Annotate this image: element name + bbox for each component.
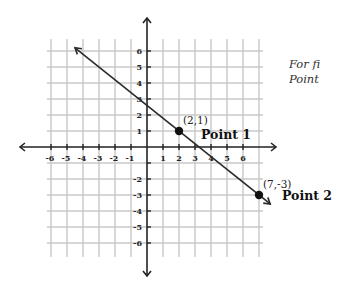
y-tick-label: -4 [133, 206, 142, 216]
side-caption: For fi Point [289, 57, 356, 87]
graph-line [75, 48, 270, 204]
side-caption-line-1: For fi [289, 57, 356, 72]
point-marker [255, 191, 263, 199]
point-coordinate-label: (2,1) [183, 114, 208, 126]
grid-lines [47, 39, 263, 257]
x-tick-label: -2 [110, 153, 119, 163]
x-tick-label: -4 [78, 153, 87, 163]
y-tick-label: -3 [133, 190, 142, 200]
y-tick-label: 5 [136, 62, 142, 72]
axes [20, 18, 276, 276]
y-tick-label: 4 [136, 78, 142, 88]
x-tick-label: 3 [192, 153, 198, 163]
y-tick-label: 2 [136, 110, 142, 120]
side-caption-line-2: Point [289, 72, 356, 87]
x-tick-label: -6 [46, 153, 55, 163]
coordinate-plane-chart: -6-5-4-3-2-1123456 654321-2-3-4-5-6 (2,1… [0, 0, 356, 282]
y-tick-label: 1 [136, 126, 142, 136]
x-tick-label: -5 [62, 153, 71, 163]
point-name-label: Point 1 [201, 127, 251, 142]
x-tick-label: -3 [94, 153, 103, 163]
line-series [75, 48, 270, 204]
x-tick-label: -1 [126, 153, 135, 163]
y-tick-label: -2 [133, 174, 142, 184]
x-tick-label: 6 [240, 153, 246, 163]
point-marker [175, 127, 183, 135]
y-tick-label: 6 [136, 46, 142, 56]
y-tick-label: -6 [133, 238, 142, 248]
point-name-label: Point 2 [282, 188, 332, 203]
x-tick-label: 1 [160, 153, 166, 163]
x-tick-label: 2 [176, 153, 182, 163]
y-tick-label: -5 [133, 222, 142, 232]
x-tick-label: 5 [224, 153, 230, 163]
